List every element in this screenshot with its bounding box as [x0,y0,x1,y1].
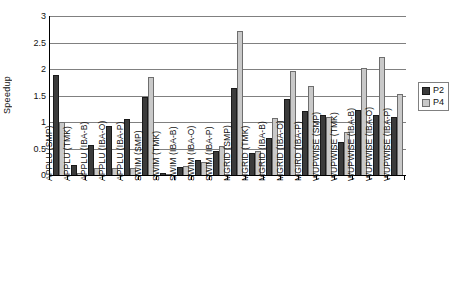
x-axis-tick-label: APPLU (TMK) [62,126,71,181]
x-axis-tick-label: MGRID (SMP) [222,125,231,181]
x-axis-tick-label: WUPWISE (TMK) [329,112,338,181]
x-axis-label-cell: WUPWISE (SMP) [316,181,334,281]
x-axis-tick-label: WUPWISE (IBA-O) [365,107,374,181]
speedup-bar-chart: Speedup 32.521.510.50 APPLU (SMP)APPLU (… [0,0,466,287]
x-axis-label-cell: SWIM (IBA-B) [174,181,192,281]
y-axis-tick-label: 2 [41,65,46,74]
x-axis-label-cell: WUPWISE (TMK) [334,181,352,281]
x-axis-label-cell: MGIRD (IBA-P) [298,181,316,281]
bar-p2 [124,119,130,175]
x-axis-tick-label: SWIM (TMK) [151,131,160,181]
x-axis-label-cell: WUPWISE (IBA-O) [369,181,387,281]
x-axis-tick-label: APPLU (SMP) [44,126,53,181]
x-axis-tick-label: SWIM (IBA-O) [187,126,196,182]
x-axis-label-cell: WUPWISE (IBA-P) [387,181,405,281]
x-axis-tick-label: SWIM (IBA-B) [169,126,178,181]
x-axis-label-cell: APPLU (SMP) [49,181,67,281]
x-axis-tick-label: MGIRD (IBA-P) [294,121,303,181]
x-axis-tick-end [404,176,405,180]
legend-swatch-p4 [422,99,430,107]
y-axis-tick-label: 2.5 [33,38,46,47]
x-axis-label-cell: SWIM (TMK) [156,181,174,281]
legend-label: P4 [433,98,444,107]
x-axis-tick-label: APPLU (IBA-O) [98,121,107,181]
x-axis-tick-label: APPLU (IBA-B) [80,122,89,181]
y-axis-tick-label: 3 [41,12,46,21]
x-axis-tick-label: MGRID (IBA-O) [276,120,285,181]
x-axis-label-cell: APPLU (IBA-P) [120,181,138,281]
x-axis-label-cell: APPLU (TMK) [67,181,85,281]
x-axis-label-cell: SWIM (IBA-P) [209,181,227,281]
x-axis-tick-label: SWIM (IBA-P) [205,126,214,181]
y-axis-title: Speedup [2,60,18,130]
x-axis-tick-label: WUPWISE (SMP) [311,112,320,181]
x-axis-tick-label: SWIM (SMP) [133,130,142,181]
x-axis-tick-label: MGRID (TMK) [240,126,249,181]
x-axis-tick-labels: APPLU (SMP)APPLU (TMK)APPLU (IBA-B)APPLU… [49,181,405,281]
x-axis-label-cell: SWIM (IBA-O) [191,181,209,281]
x-axis-label-cell: MGRID (IBA-B) [263,181,281,281]
x-axis-label-cell: APPLU (IBA-B) [85,181,103,281]
x-axis-tick-label: WUPWISE (IBA-P) [383,108,392,181]
legend-item-p2: P2 [422,86,444,95]
y-axis-tick-labels: 32.521.510.50 [18,16,46,175]
x-axis-label-cell: APPLU (IBA-O) [102,181,120,281]
x-axis-label-cell: MGRID (IBA-O) [280,181,298,281]
legend-label: P2 [433,86,444,95]
chart-legend: P2P4 [418,82,449,111]
x-axis-label-cell: MGRID (TMK) [245,181,263,281]
x-axis-tick-label: APPLU (IBA-P) [116,122,125,181]
x-axis-tick-label: WUPWISE (IBA-B) [347,108,356,181]
x-axis-label-cell: WUPWISE (IBA-B) [352,181,370,281]
legend-item-p4: P4 [422,98,444,107]
x-axis-tick-label: MGRID (IBA-B) [258,121,267,181]
bar-p4 [397,94,403,175]
x-axis-label-cell: MGRID (SMP) [227,181,245,281]
x-axis-label-cell: SWIM (SMP) [138,181,156,281]
legend-swatch-p2 [422,87,430,95]
y-axis-tick-label: 1.5 [33,91,46,100]
